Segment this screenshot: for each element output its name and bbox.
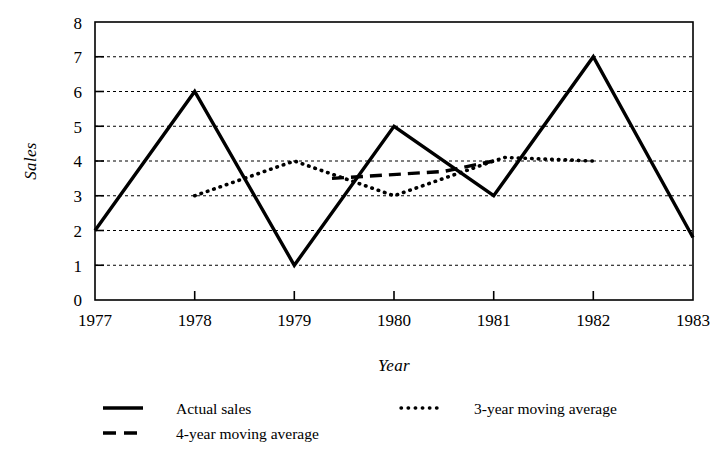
y-tick-label-5: 5 [74, 118, 83, 137]
x-tick-labels: 1977 1978 1979 1980 1981 1982 1983 [78, 311, 710, 330]
x-axis-ticks [195, 291, 594, 300]
x-tick-label-1978: 1978 [178, 311, 212, 330]
y-axis-title: Sales [21, 142, 40, 179]
x-tick-label-1980: 1980 [377, 311, 411, 330]
y-tick-label-8: 8 [74, 14, 83, 33]
y-tick-label-6: 6 [74, 83, 83, 102]
x-tick-label-1982: 1982 [576, 311, 610, 330]
series-4yr-moving-average-line [332, 161, 494, 178]
y-tick-label-4: 4 [74, 152, 83, 171]
legend-label-3yr-moving-average: 3-year moving average [474, 400, 617, 417]
x-tick-label-1979: 1979 [277, 311, 311, 330]
legend-label-4yr-moving-average: 4-year moving average [176, 425, 319, 442]
y-axis-ticks [95, 57, 104, 266]
legend-label-actual-sales: Actual sales [176, 400, 251, 417]
y-tick-labels: 8 7 6 5 4 3 2 1 0 [74, 14, 83, 311]
y-tick-label-2: 2 [74, 222, 83, 241]
y-tick-label-7: 7 [74, 48, 83, 67]
chart-figure: 8 7 6 5 4 3 2 1 0 1977 1978 1979 1980 19… [0, 0, 720, 453]
series-actual-sales-line [95, 57, 693, 266]
x-tick-label-1981: 1981 [477, 311, 511, 330]
x-tick-label-1977: 1977 [78, 311, 113, 330]
chart-legend: Actual sales 3-year moving average 4-yea… [103, 400, 617, 442]
x-tick-label-1983: 1983 [676, 311, 710, 330]
y-tick-label-1: 1 [74, 257, 83, 276]
chart-svg: 8 7 6 5 4 3 2 1 0 1977 1978 1979 1980 19… [0, 0, 720, 453]
y-tick-label-3: 3 [74, 187, 83, 206]
series-3yr-moving-average-line [195, 158, 594, 196]
plot-frame [95, 22, 693, 300]
gridlines [95, 57, 693, 266]
x-axis-title: Year [378, 356, 410, 375]
y-tick-label-0: 0 [74, 291, 83, 310]
